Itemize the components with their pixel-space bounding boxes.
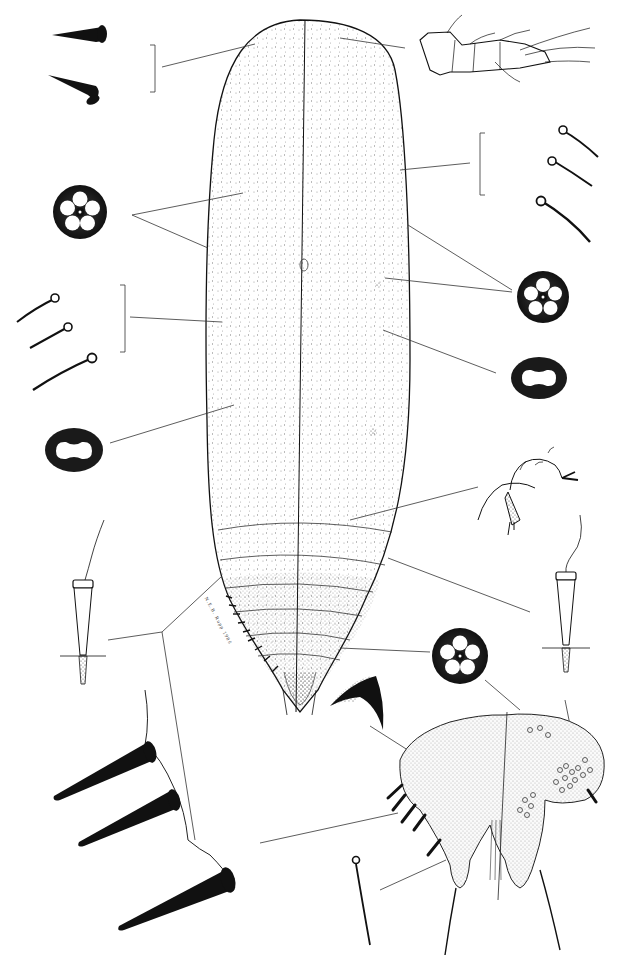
bilocular-pore-left — [45, 428, 103, 472]
morphology-plate — [0, 0, 625, 971]
antenna — [420, 15, 595, 82]
quinquelocular-pore-upper-left — [53, 185, 107, 239]
ventral-setae-right — [537, 126, 599, 242]
body-outline — [206, 20, 410, 715]
quinquelocular-pore-lower — [432, 628, 488, 684]
quinquelocular-pore-right — [517, 271, 569, 323]
anal-lobes — [388, 712, 604, 955]
marginal-spines-enlarged — [54, 690, 239, 931]
tubular-duct-right — [542, 515, 590, 672]
tubular-duct-left — [60, 520, 106, 684]
spiracle — [478, 447, 578, 535]
anal-ring-seta — [330, 676, 383, 730]
anal-lobe-seta — [353, 857, 371, 946]
dorsal-setae-conical — [48, 25, 107, 107]
bilocular-pore-right — [511, 357, 567, 399]
marginal-setae-left — [17, 294, 97, 390]
